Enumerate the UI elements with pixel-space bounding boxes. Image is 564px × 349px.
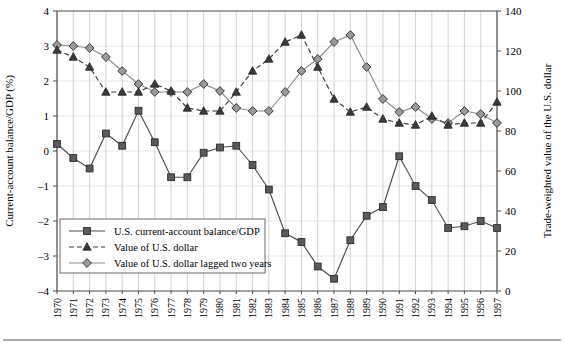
x-axis-tick-label: 1976 <box>149 298 160 318</box>
data-point-square <box>168 174 175 181</box>
series-triangle <box>53 31 501 129</box>
left-axis-tick-label: 1 <box>44 110 50 122</box>
data-point-triangle <box>85 63 93 70</box>
left-axis-tick-label: –4 <box>37 285 50 297</box>
left-axis-title: Current-account balance/GDP (%) <box>3 75 16 227</box>
data-point-triangle <box>493 98 501 106</box>
data-point-square <box>396 153 403 160</box>
legend-label-triangle: Value of U.S. dollar <box>114 242 198 253</box>
data-point-square <box>412 183 419 190</box>
right-axis-tick-label: 80 <box>505 125 517 137</box>
x-axis-tick-label: 1989 <box>361 298 372 318</box>
legend-marker-square <box>84 228 91 235</box>
data-point-square <box>314 263 321 270</box>
line-chart: 43210–1–2–3–4140120100806040200197019711… <box>0 0 564 349</box>
right-axis-tick-label: 60 <box>505 165 517 177</box>
data-point-diamond <box>362 63 371 72</box>
x-axis-tick-label: 1995 <box>459 298 470 318</box>
data-point-square <box>54 141 61 148</box>
data-point-square <box>298 239 305 246</box>
data-point-square <box>135 107 142 114</box>
x-axis-tick-label: 1971 <box>68 298 79 318</box>
series-line-diamond <box>57 35 497 123</box>
data-point-triangle <box>363 103 371 111</box>
x-axis-tick-label: 1994 <box>443 298 454 318</box>
data-point-diamond <box>411 103 420 112</box>
data-point-square <box>331 275 338 282</box>
data-point-diamond <box>150 88 159 97</box>
data-point-square <box>102 130 109 137</box>
x-axis-tick-label: 1972 <box>84 298 95 318</box>
x-axis-tick-label: 1992 <box>410 298 421 318</box>
legend: U.S. current-account balance/GDPValue of… <box>60 219 271 273</box>
data-point-diamond <box>460 107 469 116</box>
right-axis-tick-label: 0 <box>505 285 511 297</box>
right-axis-tick-label: 120 <box>505 45 522 57</box>
x-axis-tick-label: 1980 <box>214 298 225 318</box>
x-axis-tick-label: 1983 <box>263 298 274 318</box>
data-point-triangle <box>69 53 77 61</box>
left-axis-tick-label: 0 <box>44 145 50 157</box>
data-point-square <box>184 174 191 181</box>
data-point-square <box>119 142 126 149</box>
data-point-square <box>151 139 158 146</box>
left-axis-tick-label: –2 <box>37 215 49 227</box>
legend-label-square: U.S. current-account balance/GDP <box>114 226 260 237</box>
left-axis-tick-label: –1 <box>37 180 49 192</box>
data-point-square <box>217 144 224 151</box>
right-axis-tick-label: 20 <box>505 245 517 257</box>
data-point-square <box>282 230 289 237</box>
x-axis-tick-label: 1974 <box>117 298 128 318</box>
x-axis-tick-label: 1987 <box>329 298 340 318</box>
x-axis-tick-label: 1977 <box>166 298 177 318</box>
chart-figure: 43210–1–2–3–4140120100806040200197019711… <box>0 0 564 349</box>
legend-label-diamond: Value of U.S. dollar lagged two years <box>114 258 271 269</box>
data-point-triangle <box>477 119 485 127</box>
right-axis-tick-label: 40 <box>505 205 517 217</box>
series-line-triangle <box>57 35 497 125</box>
data-point-diamond <box>493 119 502 128</box>
x-axis-tick-label: 1990 <box>377 298 388 318</box>
right-axis-tick-label: 140 <box>505 5 522 17</box>
data-point-diamond <box>346 31 355 40</box>
data-point-square <box>233 142 240 149</box>
x-axis-tick-label: 1985 <box>296 298 307 318</box>
x-axis-tick-label: 1993 <box>426 298 437 318</box>
data-point-diamond <box>69 42 78 51</box>
x-axis-tick-label: 1984 <box>280 298 291 318</box>
x-axis-tick-label: 1978 <box>182 298 193 318</box>
data-point-diamond <box>183 88 192 97</box>
x-axis-tick-label: 1997 <box>492 298 503 318</box>
x-axis-tick-label: 1991 <box>394 298 405 318</box>
data-point-triangle <box>330 95 338 103</box>
data-point-triangle <box>297 31 305 39</box>
data-point-square <box>265 186 272 193</box>
right-axis-tick-label: 100 <box>505 85 522 97</box>
data-point-square <box>428 197 435 204</box>
x-axis-tick-label: 1988 <box>345 298 356 318</box>
data-point-square <box>200 149 207 156</box>
data-point-triangle <box>248 67 256 75</box>
x-axis-tick-label: 1986 <box>312 298 323 318</box>
left-axis-tick-label: 2 <box>44 75 50 87</box>
data-point-triangle <box>428 112 436 120</box>
x-axis-tick-label: 1996 <box>475 298 486 318</box>
data-point-square <box>363 212 370 219</box>
left-axis-tick-label: 4 <box>44 5 50 17</box>
x-axis-tick-label: 1982 <box>247 298 258 318</box>
data-point-triangle <box>314 63 322 70</box>
data-point-square <box>347 237 354 244</box>
right-axis-title: Trade-weighted value of the U.S. dollar <box>541 63 553 238</box>
data-point-square <box>494 225 501 232</box>
data-point-diamond <box>248 107 257 116</box>
data-point-diamond <box>476 110 485 119</box>
x-axis-tick-label: 1970 <box>52 298 63 318</box>
data-point-square <box>461 223 468 230</box>
data-point-triangle <box>102 88 110 96</box>
data-point-square <box>477 218 484 225</box>
data-point-square <box>445 225 452 232</box>
series-diamond <box>53 31 502 128</box>
x-axis-tick-label: 1973 <box>100 298 111 318</box>
data-point-square <box>380 204 387 211</box>
data-point-square <box>86 165 93 172</box>
